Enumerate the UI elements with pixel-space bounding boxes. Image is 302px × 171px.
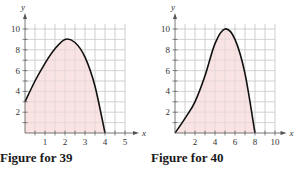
x-tick-label: 2	[63, 137, 68, 147]
x-tick-label: 10	[271, 137, 281, 147]
figure-39: 12345246810xy Figure for 39	[0, 0, 151, 171]
x-tick-label: 6	[233, 137, 238, 147]
y-tick-label: 8	[166, 45, 171, 55]
y-tick-label: 8	[16, 45, 21, 55]
y-tick-label: 2	[16, 107, 21, 117]
figure-40-caption: Figure for 40	[151, 150, 223, 166]
y-tick-label: 6	[166, 66, 171, 76]
y-axis-arrow-icon	[23, 13, 27, 19]
x-tick-label: 3	[83, 137, 88, 147]
figure-39-plot: 12345246810xy	[0, 0, 151, 171]
x-axis-label: x	[289, 128, 294, 138]
y-tick-label: 10	[11, 24, 21, 34]
y-tick-label: 10	[161, 24, 171, 34]
y-axis-label: y	[170, 2, 175, 12]
y-tick-label: 4	[166, 86, 171, 96]
x-tick-label: 1	[43, 137, 48, 147]
y-axis-label: y	[20, 2, 25, 12]
y-tick-label: 2	[166, 107, 171, 117]
y-tick-label: 4	[16, 86, 21, 96]
x-tick-label: 8	[253, 137, 258, 147]
figure-39-caption: Figure for 39	[0, 150, 72, 166]
figure-40-plot: 246810246810xy	[151, 0, 302, 171]
x-axis-arrow-icon	[281, 131, 287, 135]
x-axis-arrow-icon	[133, 131, 139, 135]
x-tick-label: 4	[103, 137, 108, 147]
figure-40: 246810246810xy Figure for 40	[151, 0, 302, 171]
y-tick-label: 6	[16, 66, 21, 76]
x-axis-label: x	[141, 128, 146, 138]
y-axis-arrow-icon	[173, 13, 177, 19]
x-tick-label: 2	[193, 137, 198, 147]
x-tick-label: 4	[213, 137, 218, 147]
x-tick-label: 5	[123, 137, 128, 147]
